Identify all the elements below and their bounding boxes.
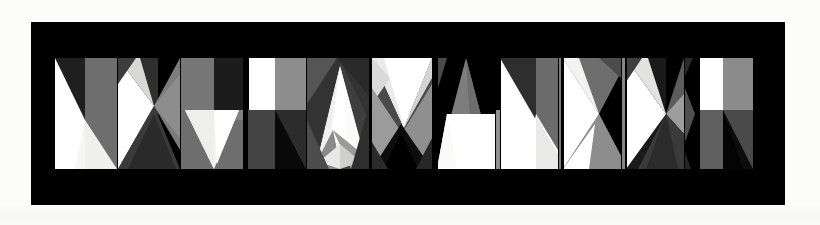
glyph-k-2 (118, 58, 180, 169)
glyph-k-10 (622, 58, 684, 169)
caption-strip (31, 210, 785, 222)
glyph-strip (55, 58, 761, 169)
glyph-y-3 (181, 58, 243, 169)
glyph-n-1 (55, 58, 117, 169)
artwork-page: NKYPAVANKKP geometric grayscale letterfo… (0, 0, 820, 225)
artwork-black-panel (31, 22, 785, 205)
glyph-p-4 (244, 58, 306, 169)
artwork-medium: geometric grayscale letterform compositi… (0, 0, 1, 1)
artwork-title: NKYPAVANKKP (0, 0, 1, 1)
glyph-p-11 (685, 58, 753, 169)
glyph-n-8 (496, 58, 558, 169)
glyph-v-6 (370, 58, 432, 169)
glyph-a-5 (307, 58, 369, 169)
glyph-x-9 (559, 58, 621, 169)
glyph-a-7 (433, 58, 495, 169)
